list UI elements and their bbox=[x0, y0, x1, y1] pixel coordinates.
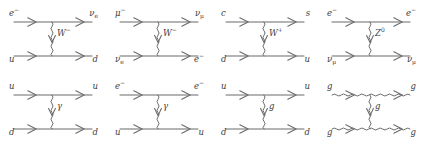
label-bottom-outgoing: d bbox=[93, 55, 98, 64]
label-top-incoming: u bbox=[9, 82, 14, 91]
label-top-outgoing: s bbox=[306, 9, 310, 18]
label-bottom-incoming: d bbox=[221, 55, 226, 64]
label-top-incoming: e− bbox=[9, 9, 19, 18]
label-top-outgoing: νμ bbox=[195, 9, 204, 18]
label-top-outgoing: u bbox=[93, 82, 98, 91]
label-boson: γ bbox=[57, 102, 62, 111]
diagram-lines bbox=[318, 73, 422, 146]
label-bottom-outgoing: e− bbox=[194, 55, 204, 64]
label-boson: Z0 bbox=[375, 29, 385, 38]
label-top-outgoing: e− bbox=[194, 82, 204, 91]
feynman-diagram-strong-gluon-self-interaction: ggggg bbox=[318, 73, 422, 146]
label-bottom-outgoing: g bbox=[411, 128, 416, 137]
label-bottom-outgoing: u bbox=[199, 128, 204, 137]
feynman-diagram-figure: e−νeudW−μ−νμνee−W−csduW+e−e−νμνμZ0uuddγe… bbox=[0, 0, 422, 146]
diagram-lines bbox=[0, 73, 106, 146]
feynman-diagram-electromagnetic-electron-up: e−e−uuγ bbox=[106, 73, 212, 146]
feynman-diagram-weak-charged-current-muon-neutrino: μ−νμνee−W− bbox=[106, 0, 212, 73]
label-boson: g bbox=[375, 102, 380, 111]
label-bottom-incoming: νe bbox=[115, 55, 124, 64]
label-top-incoming: e− bbox=[327, 9, 337, 18]
label-boson: g bbox=[269, 102, 274, 111]
feynman-diagram-strong-up-down-gluon: uuddg bbox=[212, 73, 318, 146]
label-bottom-outgoing: νμ bbox=[407, 55, 416, 64]
label-top-outgoing: e− bbox=[406, 9, 416, 18]
label-bottom-incoming: g bbox=[327, 128, 332, 137]
label-top-incoming: e− bbox=[115, 82, 125, 91]
label-boson: γ bbox=[163, 102, 168, 111]
label-top-outgoing: u bbox=[305, 82, 310, 91]
feynman-diagram-electromagnetic-up-down: uuddγ bbox=[0, 73, 106, 146]
label-bottom-outgoing: d bbox=[93, 128, 98, 137]
label-bottom-incoming: d bbox=[221, 128, 226, 137]
label-top-incoming: μ− bbox=[115, 9, 126, 18]
label-boson: W+ bbox=[269, 29, 283, 38]
label-boson: W− bbox=[57, 29, 71, 38]
label-bottom-incoming: u bbox=[115, 128, 120, 137]
label-boson: W− bbox=[163, 29, 177, 38]
label-top-incoming: u bbox=[221, 82, 226, 91]
label-bottom-outgoing: u bbox=[305, 55, 310, 64]
label-top-incoming: g bbox=[327, 82, 332, 91]
label-bottom-incoming: u bbox=[9, 55, 14, 64]
label-bottom-incoming: d bbox=[9, 128, 14, 137]
diagram-lines bbox=[212, 0, 318, 73]
label-top-outgoing: νe bbox=[89, 9, 98, 18]
feynman-diagram-weak-neutral-current-electron-neutrino: e−e−νμνμZ0 bbox=[318, 0, 422, 73]
label-bottom-outgoing: d bbox=[305, 128, 310, 137]
feynman-diagram-weak-charged-current-electron-quark: e−νeudW− bbox=[0, 0, 106, 73]
feynman-diagram-weak-charged-current-charm-down: csduW+ bbox=[212, 0, 318, 73]
label-top-incoming: c bbox=[221, 9, 226, 18]
label-bottom-incoming: νμ bbox=[327, 55, 336, 64]
label-top-outgoing: g bbox=[411, 82, 416, 91]
diagram-lines bbox=[212, 73, 318, 146]
